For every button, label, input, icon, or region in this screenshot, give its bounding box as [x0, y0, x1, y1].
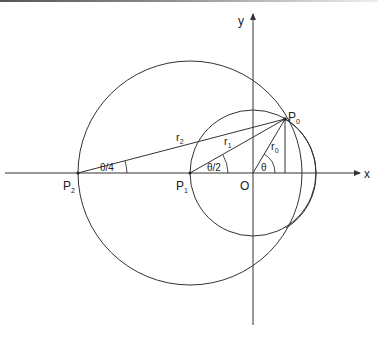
- r2-label: r2: [176, 131, 184, 145]
- x-axis-label: x: [364, 167, 370, 181]
- theta-quarter-label: θ/4: [100, 162, 114, 173]
- p2-label: P2: [63, 179, 75, 194]
- theta-label: θ: [261, 162, 267, 173]
- origin-label: O: [240, 179, 249, 193]
- point-p2: [77, 172, 80, 175]
- theta-half-arc: [223, 155, 228, 173]
- point-p0: [283, 117, 287, 121]
- point-p1: [189, 172, 192, 175]
- r0-line: [253, 119, 285, 173]
- theta-quarter-arc: [125, 161, 127, 173]
- geometry-diagram: x y O P0 P1 P2 r0 r1 r2 θ θ/2 θ/4: [0, 0, 378, 339]
- r1-label: r1: [224, 135, 232, 149]
- theta-half-label: θ/2: [207, 162, 221, 173]
- y-axis-label: y: [238, 14, 244, 28]
- p0-label: P0: [288, 110, 300, 125]
- r0-label: r0: [271, 140, 279, 154]
- p1-label: P1: [176, 179, 188, 194]
